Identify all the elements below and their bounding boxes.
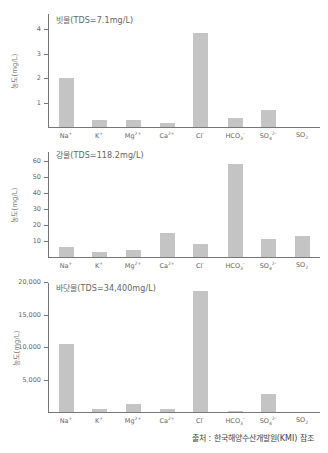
x-tick-label: SO2 [287, 416, 317, 425]
x-tick-label: SO42- [253, 416, 283, 426]
y-tick [44, 347, 48, 348]
y-axis-label: 농도(mg/L) [11, 318, 21, 378]
bar-2 [92, 409, 107, 412]
bar-7 [261, 394, 276, 412]
y-tick-label: 5,000 [1, 376, 41, 384]
x-axis [48, 412, 320, 413]
bar-4 [160, 409, 175, 412]
x-tick-label: Mg2+ [118, 416, 148, 425]
chart-title: 바닷물(TDS=34,400mg/L) [56, 282, 156, 293]
bar-6 [228, 411, 243, 412]
y-tick-label: 10,000 [1, 343, 41, 351]
bar-3 [126, 404, 141, 412]
bar-1 [59, 344, 74, 412]
y-axis [48, 283, 49, 412]
y-tick [44, 380, 48, 381]
y-tick-label: 20,000 [1, 278, 41, 286]
bar-5 [193, 291, 208, 412]
y-tick-label: 15,000 [1, 311, 41, 319]
x-tick-label: Cl- [185, 416, 215, 425]
x-tick-label: Na+ [51, 416, 81, 425]
y-tick [44, 282, 48, 283]
seawater-chart: 5,00010,00015,00020,000바닷물(TDS=34,400mg/… [0, 0, 328, 453]
y-tick [44, 315, 48, 316]
x-tick-label: HCO3- [220, 416, 250, 426]
x-tick-label: K+ [84, 416, 114, 425]
source-note: 출처 : 한국해양수산개발원(KMI) 참조 [192, 432, 314, 443]
x-tick-label: Ca2+ [152, 416, 182, 425]
